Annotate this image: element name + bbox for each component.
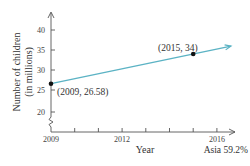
point-label-2015: (2015, 34) bbox=[158, 43, 198, 54]
svg-text:(in millions): (in millions) bbox=[23, 47, 35, 97]
x-tick-label: 2016 bbox=[209, 135, 225, 144]
y-tick-label: 20 bbox=[37, 108, 45, 117]
x-tick-label: 2012 bbox=[114, 135, 130, 144]
y-tick-label: 35 bbox=[37, 46, 45, 55]
y-tick-label: 30 bbox=[37, 66, 45, 75]
footer-caption: Asia 59.2% bbox=[204, 145, 248, 155]
y-tick-label: 25 bbox=[37, 86, 45, 95]
y-axis: 2025303540 bbox=[37, 12, 55, 132]
x-axis: 200920122016 bbox=[43, 128, 235, 144]
line-chart: 2025303540 200920122016 Number of childr… bbox=[0, 0, 250, 166]
y-tick-label: 40 bbox=[37, 26, 45, 35]
x-axis-title: Year bbox=[136, 144, 155, 155]
x-tick-label: 2009 bbox=[43, 135, 59, 144]
svg-text:Number of children: Number of children bbox=[11, 33, 22, 112]
y-axis-title: Number of children (in millions) bbox=[11, 33, 35, 112]
data-point bbox=[49, 81, 54, 86]
axis-break-icon bbox=[49, 117, 53, 132]
data-series bbox=[49, 45, 231, 86]
point-label-2009: (2009, 26.58) bbox=[57, 87, 108, 98]
series-line bbox=[51, 46, 231, 84]
